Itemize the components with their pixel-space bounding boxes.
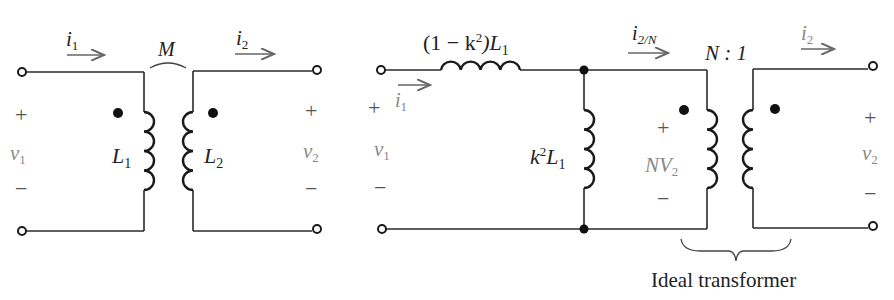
terminal-icon <box>313 66 321 74</box>
junction-dot-icon <box>580 225 589 234</box>
v1-minus-sign: − <box>374 175 386 200</box>
current-i1-label: i1 <box>395 89 407 114</box>
polarity-dot-icon <box>679 105 689 115</box>
series-inductor-icon <box>441 62 520 70</box>
terminal-icon <box>869 222 877 230</box>
series-inductor-label: (1 − k2)L1 <box>423 30 509 58</box>
voltage-v2-label: v2 <box>862 141 878 167</box>
ideal-transformer-label: Ideal transformer <box>651 268 796 292</box>
inductor-l2-label: L2 <box>203 143 223 171</box>
terminal-icon <box>377 66 385 74</box>
terminal-icon <box>313 225 321 233</box>
shunt-inductor-icon <box>584 110 594 188</box>
inductor-l2-icon <box>183 112 193 190</box>
terminal-icon <box>18 68 26 76</box>
terminal-icon <box>378 225 386 233</box>
v2-plus-sign: + <box>305 98 317 123</box>
right-circuit: (1 − k2)L1 k2L1 + i1 v1 − i2/N N : 1 i2 … <box>368 21 878 292</box>
primary-voltage-label: NV2 <box>644 153 678 179</box>
polarity-dot-icon <box>208 108 218 118</box>
current-i2n-label: i2/N <box>632 22 658 47</box>
terminal-icon <box>869 62 877 70</box>
ideal-primary-coil-icon <box>707 110 717 188</box>
voltage-v1-label: v1 <box>374 137 390 163</box>
mutual-inductance-label: M <box>157 38 176 60</box>
current-i2-label: i2 <box>236 26 248 52</box>
left-circuit: i1 i2 M L1 L2 + v1 − + v2 − <box>10 26 321 235</box>
current-i1-label: i1 <box>66 27 78 53</box>
shunt-inductor-label: k2L1 <box>530 144 566 172</box>
v1-plus-sign: + <box>368 95 380 120</box>
inductor-l1-label: L1 <box>111 143 131 171</box>
polarity-dot-icon <box>770 104 780 114</box>
junction-dot-icon <box>580 66 589 75</box>
v1-minus-sign: − <box>15 176 27 201</box>
v1-plus-sign: + <box>15 102 27 127</box>
terminal-icon <box>18 227 26 235</box>
ideal-secondary-coil-icon <box>743 110 753 188</box>
v2-minus-sign: − <box>864 181 876 206</box>
turns-ratio-label: N : 1 <box>704 41 747 65</box>
circuit-diagram: i1 i2 M L1 L2 + v1 − + v2 − <box>0 0 894 300</box>
v2-minus-sign: − <box>305 176 317 201</box>
polarity-dot-icon <box>113 108 123 118</box>
nv2-minus-sign: − <box>657 186 669 211</box>
current-i2-label: i2 <box>801 21 813 47</box>
ideal-transformer-brace <box>681 239 791 261</box>
inductor-l1-icon <box>144 112 154 190</box>
v2-plus-sign: + <box>864 105 876 130</box>
mutual-coupling-arc <box>150 63 186 68</box>
voltage-v2-label: v2 <box>303 139 319 165</box>
nv2-plus-sign: + <box>657 115 669 140</box>
voltage-v1-label: v1 <box>10 141 26 167</box>
